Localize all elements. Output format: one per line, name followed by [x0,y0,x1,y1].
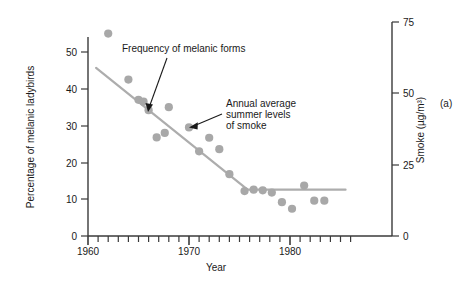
x-ticklabel-1960: 1960 [77,246,100,257]
y-axis-left: 50 40 30 20 10 0 Percentage of melanic l… [25,37,88,242]
annotation-smoke-label-line2: summer levels [226,109,290,120]
data-point [300,181,308,189]
smoke-trend-line [96,68,345,190]
data-point [268,188,276,196]
annotation-smoke: Annual average summer levels of smoke [189,98,296,131]
data-point [205,134,213,142]
data-point [215,145,223,153]
data-point [250,186,258,194]
panel-label: (a) [440,98,452,109]
data-point [310,197,318,205]
y2-ticklabel-75: 75 [403,17,415,28]
data-point [278,198,286,206]
y-ticklabel-10: 10 [66,194,78,205]
x-axis-title: Year [206,262,227,273]
chart-svg: 50 40 30 20 10 0 Percentage of melanic l… [0,0,468,282]
y-ticklabel-0: 0 [71,231,77,242]
y-axis-right-title: Smoke (µg/m³) [415,97,426,163]
data-point [165,103,173,111]
x-axis: 1960 1970 1980 Year [77,236,392,273]
data-point [259,186,267,194]
y2-ticklabel-50: 50 [403,88,415,99]
data-point [195,147,203,155]
data-point [124,76,132,84]
data-point [225,170,233,178]
data-point [104,29,112,37]
annotation-melanic-leader [150,58,167,105]
annotation-smoke-leader [196,114,222,125]
y-ticklabel-50: 50 [66,47,78,58]
x-axis-minor-ticks [88,236,351,245]
y2-ticklabel-0: 0 [403,231,409,242]
x-ticklabel-1970: 1970 [178,246,201,257]
data-point [153,133,161,141]
data-point [240,187,248,195]
melanic-scatter-points [104,29,328,212]
y-ticklabel-30: 30 [66,121,78,132]
annotation-smoke-label-line3: of smoke [226,120,267,131]
y2-ticklabel-25: 25 [403,160,415,171]
annotation-melanic-label: Frequency of melanic forms [122,43,245,54]
y-axis-left-title: Percentage of melanic ladybirds [25,66,36,208]
x-ticklabel-1980: 1980 [279,246,302,257]
data-point [161,129,169,137]
y-ticklabel-20: 20 [66,158,78,169]
y-axis-right: 75 50 25 0 Smoke (µg/m³) [392,17,426,242]
data-point [288,205,296,213]
figure-panel-a: 50 40 30 20 10 0 Percentage of melanic l… [0,0,468,282]
annotation-smoke-label-line1: Annual average [226,98,296,109]
data-point [320,197,328,205]
y-ticklabel-40: 40 [66,84,78,95]
